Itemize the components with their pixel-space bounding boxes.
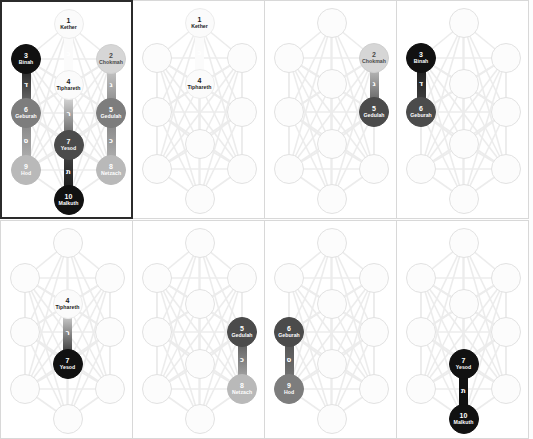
sephirah-yesod-inactive[interactable] bbox=[185, 349, 215, 379]
panel-2-kether-tiphareth[interactable]: כ1Kether4Tiphareth bbox=[132, 0, 265, 219]
sephirah-yesod-inactive[interactable] bbox=[185, 129, 215, 159]
sephirah-geburah[interactable]: 6Geburah bbox=[11, 98, 41, 128]
tree-stage: ג2Chokmah5Gedulah bbox=[265, 1, 396, 218]
sephirah-netzach-inactive[interactable] bbox=[491, 374, 521, 404]
sephirah-gedulah[interactable]: 5Gedulah bbox=[96, 98, 126, 128]
sephirah-kether-inactive[interactable] bbox=[449, 228, 479, 258]
sephirah-hod-inactive[interactable] bbox=[406, 154, 436, 184]
sephirah-geburah[interactable]: 6Geburah bbox=[406, 97, 436, 127]
sephirah-malkuth-inactive[interactable] bbox=[53, 404, 83, 434]
sephirah-number: 5 bbox=[109, 106, 113, 113]
sephirah-kether-inactive[interactable] bbox=[317, 8, 347, 38]
sephirah-kether-inactive[interactable] bbox=[449, 8, 479, 38]
sephirah-tiphareth-inactive[interactable] bbox=[449, 69, 479, 99]
sephirah-gedulah-inactive[interactable] bbox=[491, 317, 521, 347]
sephirah-netzach[interactable]: 8Netzach bbox=[96, 155, 126, 185]
panel-6-gedulah-netzach[interactable]: כ5Gedulah8Netzach bbox=[132, 220, 265, 439]
sephirah-kether[interactable]: 1Kether bbox=[185, 8, 215, 38]
sephirah-netzach[interactable]: 8Netzach bbox=[227, 374, 257, 404]
sephirah-netzach-inactive[interactable] bbox=[359, 374, 389, 404]
sephirah-kether-inactive[interactable] bbox=[317, 228, 347, 258]
sephirah-yesod-inactive[interactable] bbox=[449, 129, 479, 159]
sephirah-hod[interactable]: 9Hod bbox=[11, 155, 41, 185]
sephirah-number: 5 bbox=[372, 105, 376, 112]
sephirah-tiphareth[interactable]: 4Tiphareth bbox=[53, 289, 83, 319]
sephirah-tiphareth-inactive[interactable] bbox=[185, 289, 215, 319]
sephirah-number: 8 bbox=[240, 382, 244, 389]
sephirah-hod-inactive[interactable] bbox=[274, 154, 304, 184]
sephirah-tiphareth[interactable]: 4Tiphareth bbox=[185, 69, 215, 99]
sephirah-malkuth[interactable]: 10Malkuth bbox=[54, 185, 84, 215]
sephirah-binah-inactive[interactable] bbox=[406, 263, 436, 293]
sephirah-chokmah-inactive[interactable] bbox=[227, 263, 257, 293]
sephirah-geburah-inactive[interactable] bbox=[406, 317, 436, 347]
sephirah-binah-inactive[interactable] bbox=[142, 263, 172, 293]
sephirah-chokmah-inactive[interactable] bbox=[227, 43, 257, 73]
sephirah-gedulah-inactive[interactable] bbox=[359, 317, 389, 347]
sephirah-geburah-inactive[interactable] bbox=[142, 317, 172, 347]
panel-8-yesod-malkuth[interactable]: ת7Yesod10Malkuth bbox=[396, 220, 529, 439]
sephirah-chokmah-inactive[interactable] bbox=[359, 263, 389, 293]
sephirah-tiphareth-inactive[interactable] bbox=[449, 289, 479, 319]
sephirah-malkuth[interactable]: 10Malkuth bbox=[449, 404, 479, 434]
sephirah-gedulah-inactive[interactable] bbox=[491, 97, 521, 127]
sephirah-number: 7 bbox=[67, 138, 71, 145]
sephirah-netzach-inactive[interactable] bbox=[359, 154, 389, 184]
sephirah-name: Tiphareth bbox=[56, 305, 80, 310]
sephirah-kether[interactable]: 1Kether bbox=[54, 9, 84, 39]
sephirah-chokmah-inactive[interactable] bbox=[491, 43, 521, 73]
sephirah-malkuth-inactive[interactable] bbox=[185, 184, 215, 214]
sephirah-binah-inactive[interactable] bbox=[274, 263, 304, 293]
sephirah-geburah[interactable]: 6Geburah bbox=[274, 317, 304, 347]
sephirah-kether-inactive[interactable] bbox=[53, 228, 83, 258]
sephirah-chokmah[interactable]: 2Chokmah bbox=[359, 43, 389, 73]
sephirah-hod[interactable]: 9Hod bbox=[274, 374, 304, 404]
sephirah-netzach-inactive[interactable] bbox=[95, 374, 125, 404]
sephirah-yesod-inactive[interactable] bbox=[317, 129, 347, 159]
sephirah-yesod-inactive[interactable] bbox=[317, 349, 347, 379]
sephirah-kether-inactive[interactable] bbox=[185, 228, 215, 258]
sephirah-hod-inactive[interactable] bbox=[10, 374, 40, 404]
path-letter-gedulah-netzach: כ bbox=[101, 138, 121, 145]
sephirah-tiphareth-inactive[interactable] bbox=[317, 69, 347, 99]
sephirah-hod-inactive[interactable] bbox=[406, 374, 436, 404]
sephirah-geburah-inactive[interactable] bbox=[274, 97, 304, 127]
panel-1-full-tree[interactable]: כדסגכרת1Kether3Binah2Chokmah4Tiphareth6G… bbox=[0, 0, 133, 219]
sephirah-binah-inactive[interactable] bbox=[10, 263, 40, 293]
sephirah-chokmah-inactive[interactable] bbox=[491, 263, 521, 293]
panel-5-tiphareth-yesod[interactable]: ר4Tiphareth7Yesod bbox=[0, 220, 133, 439]
sephirah-geburah-inactive[interactable] bbox=[142, 97, 172, 127]
sephirah-hod-inactive[interactable] bbox=[142, 154, 172, 184]
sephirah-yesod[interactable]: 7Yesod bbox=[53, 349, 83, 379]
sephirah-tiphareth[interactable]: 4Tiphareth bbox=[54, 70, 84, 100]
sephirah-gedulah[interactable]: 5Gedulah bbox=[359, 97, 389, 127]
sephirah-number: 5 bbox=[240, 325, 244, 332]
sephirah-chokmah[interactable]: 2Chokmah bbox=[96, 44, 126, 74]
sephirah-netzach-inactive[interactable] bbox=[227, 154, 257, 184]
path-letter-geburah-hod: ס bbox=[279, 357, 299, 364]
sephirah-malkuth-inactive[interactable] bbox=[317, 404, 347, 434]
sephirah-binah-inactive[interactable] bbox=[274, 43, 304, 73]
panel-3-chokmah-gedulah[interactable]: ג2Chokmah5Gedulah bbox=[264, 0, 397, 219]
sephirah-binah-inactive[interactable] bbox=[142, 43, 172, 73]
sephirah-yesod[interactable]: 7Yesod bbox=[449, 349, 479, 379]
sephirah-number: 6 bbox=[24, 106, 28, 113]
sephirah-netzach-inactive[interactable] bbox=[491, 154, 521, 184]
sephirah-hod-inactive[interactable] bbox=[142, 374, 172, 404]
sephirah-geburah-inactive[interactable] bbox=[10, 317, 40, 347]
sephirah-gedulah-inactive[interactable] bbox=[227, 97, 257, 127]
sephirah-number: 3 bbox=[24, 52, 28, 59]
sephirah-malkuth-inactive[interactable] bbox=[317, 184, 347, 214]
sephirah-gedulah[interactable]: 5Gedulah bbox=[227, 317, 257, 347]
sephirah-name: Kether bbox=[191, 24, 208, 29]
sephirah-tiphareth-inactive[interactable] bbox=[317, 289, 347, 319]
sephirah-yesod[interactable]: 7Yesod bbox=[54, 130, 84, 160]
sephirah-malkuth-inactive[interactable] bbox=[185, 404, 215, 434]
sephirah-binah[interactable]: 3Binah bbox=[406, 43, 436, 73]
sephirah-gedulah-inactive[interactable] bbox=[95, 317, 125, 347]
sephirah-binah[interactable]: 3Binah bbox=[11, 44, 41, 74]
panel-4-binah-geburah[interactable]: ד3Binah6Geburah bbox=[396, 0, 529, 219]
panel-7-geburah-hod[interactable]: ס6Geburah9Hod bbox=[264, 220, 397, 439]
sephirah-malkuth-inactive[interactable] bbox=[449, 184, 479, 214]
sephirah-chokmah-inactive[interactable] bbox=[95, 263, 125, 293]
